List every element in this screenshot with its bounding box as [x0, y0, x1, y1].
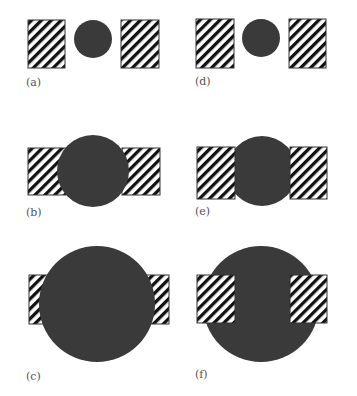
- disk: [39, 246, 155, 362]
- disk: [57, 135, 129, 207]
- panel-e: [197, 136, 327, 206]
- hatched-block-left: [197, 275, 235, 323]
- disk: [227, 136, 297, 206]
- panel-c: [29, 246, 169, 362]
- hatched-block-left: [28, 20, 65, 68]
- panel-d: [196, 19, 326, 68]
- panel-label-b: (b): [26, 206, 42, 219]
- panel-label-a: (a): [26, 76, 41, 89]
- hatched-block-left: [197, 147, 235, 199]
- disk: [74, 20, 112, 58]
- panel-b: [28, 135, 160, 207]
- panel-label-e: (e): [195, 205, 210, 218]
- hatched-block-right: [121, 20, 159, 68]
- figure-canvas: [0, 0, 357, 396]
- panel-label-f: (f): [195, 368, 208, 381]
- hatched-block-left: [196, 19, 234, 68]
- panel-label-c: (c): [26, 370, 41, 383]
- disk: [242, 19, 280, 57]
- hatched-block-right: [290, 275, 327, 323]
- panel-f: [197, 246, 327, 362]
- hatched-block-right: [290, 147, 327, 199]
- hatched-block-right: [289, 19, 326, 68]
- panel-label-d: (d): [195, 75, 211, 88]
- panel-a: [28, 20, 159, 68]
